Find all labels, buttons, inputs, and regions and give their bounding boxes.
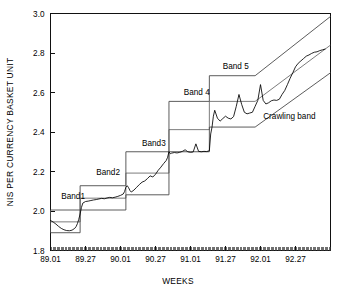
x-tick-label: 92.01 xyxy=(250,255,271,264)
y-axis-tick-labels: 1.82.02.22.42.62.83.0 xyxy=(33,10,45,256)
band-2-label: Band2 xyxy=(96,168,120,177)
x-tick-label: 91.01 xyxy=(180,255,201,264)
y-axis-ticks xyxy=(51,14,55,251)
exchange-rate-series xyxy=(51,49,326,231)
x-tick-label: 89.27 xyxy=(75,255,96,264)
x-tick-label: 90.27 xyxy=(145,255,166,264)
x-tick-label: 90.01 xyxy=(110,255,131,264)
y-tick-label: 2.4 xyxy=(33,128,45,137)
band-1-label: Band1 xyxy=(61,192,85,201)
y-tick-label: 2.0 xyxy=(33,207,45,216)
chart-canvas: 1.82.02.22.42.62.83.0 89.0189.2790.0190.… xyxy=(0,0,355,290)
x-tick-label: 89.01 xyxy=(40,255,61,264)
crawling-band-label: Crawling band xyxy=(263,112,316,121)
x-tick-label: 92.27 xyxy=(285,255,306,264)
y-axis-title: NIS PER CURRENCY BASKET UNIT xyxy=(5,58,15,207)
x-axis-tick-labels: 89.0189.2790.0190.2791.0191.2792.0192.27 xyxy=(40,255,306,264)
y-tick-label: 2.6 xyxy=(33,89,45,98)
band-annotations: Band1Band2Band3Band 4Band 5Crawling band xyxy=(61,62,316,201)
band-3-label: Band3 xyxy=(142,139,166,148)
y-tick-label: 3.0 xyxy=(33,10,45,19)
currency-band-chart: 1.82.02.22.42.62.83.0 89.0189.2790.0190.… xyxy=(0,0,355,290)
y-tick-label: 2.2 xyxy=(33,168,45,177)
exchange-rate-line xyxy=(51,49,326,231)
x-tick-label: 91.27 xyxy=(215,255,236,264)
band-5-label: Band 5 xyxy=(223,62,249,71)
band-upper-bound xyxy=(255,16,330,75)
y-tick-label: 2.8 xyxy=(33,49,45,58)
band-4-label: Band 4 xyxy=(184,88,210,97)
x-axis-title: WEEKS xyxy=(162,276,194,286)
